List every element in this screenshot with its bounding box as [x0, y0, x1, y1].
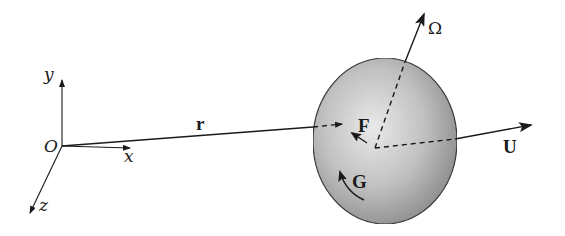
g-label: G	[352, 171, 367, 192]
z-axis-label: z	[38, 195, 49, 215]
coordinate-frame: O y x z	[30, 64, 134, 215]
u-label: U	[503, 136, 517, 157]
x-axis	[62, 146, 130, 148]
f-label: F	[358, 115, 370, 136]
x-axis-label: x	[124, 146, 134, 166]
position-vector-r: r	[62, 113, 342, 146]
rigid-body-diagram: O y x z r Ω U F G	[0, 0, 565, 236]
ellipsoid-body	[313, 58, 457, 224]
r-label: r	[196, 113, 205, 134]
origin-label: O	[44, 136, 58, 156]
omega-label: Ω	[428, 18, 442, 38]
y-axis-label: y	[43, 64, 54, 84]
